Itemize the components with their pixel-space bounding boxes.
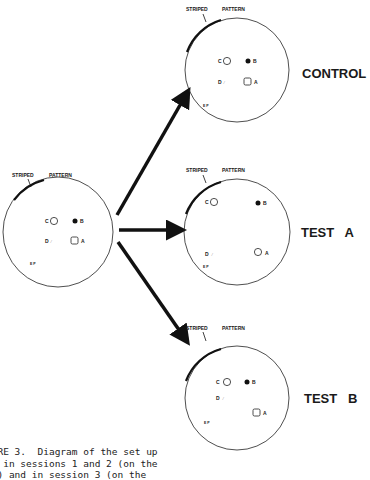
svg-text:⁄: ⁄ [50, 240, 53, 244]
svg-text:PATTERN: PATTERN [49, 172, 72, 178]
svg-text:PATTERN: PATTERN [222, 6, 245, 12]
svg-text:D: D [218, 79, 222, 85]
svg-text:PATTERN: PATTERN [222, 167, 245, 173]
arena-test-b: STRIPED PATTERN C B D ⁄ A E P [185, 325, 289, 450]
svg-text:B: B [263, 200, 267, 206]
svg-text:⁄: ⁄ [211, 253, 214, 257]
arena-control: STRIPED PATTERN C B D ⁄ A E P [185, 6, 289, 122]
svg-text:PATTERN: PATTERN [222, 325, 245, 331]
svg-text:⁄: ⁄ [223, 81, 226, 85]
svg-text:C: C [45, 218, 49, 224]
svg-text:E P: E P [30, 262, 36, 266]
condition-test-a-label: TEST A [301, 225, 355, 240]
svg-text:D: D [205, 251, 209, 257]
arrow-to-control [117, 93, 187, 215]
svg-text:STRIPED: STRIPED [12, 172, 34, 178]
svg-text:D: D [45, 238, 49, 244]
svg-text:C: C [218, 58, 222, 64]
svg-text:STRIPED: STRIPED [186, 167, 208, 173]
svg-text:STRIPED: STRIPED [186, 6, 208, 12]
svg-text:E P: E P [203, 104, 209, 108]
svg-text:E P: E P [203, 265, 209, 269]
arrow-to-test-b [118, 242, 186, 340]
svg-text:A: A [81, 238, 85, 244]
svg-text:A: A [263, 410, 267, 416]
svg-text:A: A [254, 79, 258, 85]
svg-text:⁄: ⁄ [222, 397, 225, 401]
svg-text:A: A [265, 250, 269, 256]
svg-text:B: B [252, 379, 256, 385]
svg-text:STRIPED: STRIPED [186, 325, 208, 331]
figure-caption: GURE 3. Diagram of the set uped in sessi… [0, 446, 196, 480]
condition-control-label: CONTROL [302, 66, 366, 81]
arena-test-a: STRIPED PATTERN C B D ⁄ A E P [184, 167, 290, 285]
svg-text:B: B [253, 58, 257, 64]
svg-text:D: D [216, 395, 220, 401]
setup-diagram: STRIPED PATTERN C B D ⁄ A E P STRIPED PA… [0, 0, 370, 480]
svg-text:C: C [205, 199, 209, 205]
svg-text:E P: E P [204, 421, 210, 425]
arena-initial: STRIPED PATTERN C B D ⁄ A E P [3, 172, 113, 287]
svg-text:C: C [216, 379, 220, 385]
condition-test-b-label: TEST B [304, 391, 357, 406]
svg-text:B: B [80, 218, 84, 224]
